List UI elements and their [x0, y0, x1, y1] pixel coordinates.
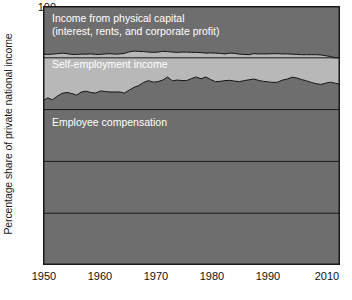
x-tick-label-1970: 1970 [133, 270, 179, 283]
x-tick-label-1950: 1950 [21, 270, 67, 283]
x-tick-label-2010: 2010 [304, 270, 350, 283]
plot-area [43, 6, 340, 265]
y-axis-title: Percentage share of private national inc… [0, 0, 16, 268]
x-tick-label-1990: 1990 [245, 270, 291, 283]
area-income-from-physical-capital [43, 6, 340, 58]
x-tick-label-1960: 1960 [77, 270, 123, 283]
area-employee-compensation [43, 77, 340, 265]
stacked-area-plot [43, 6, 340, 265]
chart-figure: Percentage share of private national inc… [0, 0, 352, 300]
x-tick-label-1980: 1980 [189, 270, 235, 283]
